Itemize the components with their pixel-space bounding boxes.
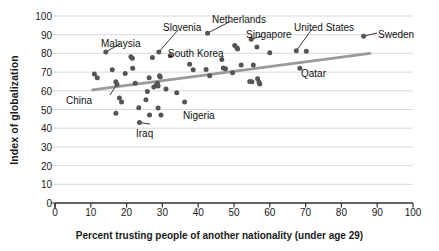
data-point-13 [133, 81, 138, 86]
data-point-58 [304, 49, 309, 54]
x-tick-label-20: 20 [107, 207, 147, 218]
y-tick-label-20: 20 [22, 160, 52, 171]
y-axis-label: Index of globalization [8, 20, 20, 200]
data-point-25 [156, 106, 161, 111]
annotation-united-states: United States [294, 22, 354, 33]
data-point-49 [249, 79, 254, 84]
data-point-41 [223, 66, 228, 71]
annotation-nigeria: Nigeria [183, 110, 215, 121]
data-point-46 [239, 62, 244, 67]
data-point-16 [143, 97, 148, 102]
data-point-8 [119, 100, 124, 105]
data-point-35 [191, 67, 196, 72]
data-point-55 [267, 50, 272, 55]
data-point-54 [257, 82, 262, 87]
annotation-china: China [66, 95, 92, 106]
x-tick-label-70: 70 [286, 207, 326, 218]
scatter-chart: 0102030405060708090100 01020304050607080… [0, 0, 439, 251]
data-point-17 [145, 89, 150, 94]
x-tick-label-0: 0 [35, 207, 75, 218]
y-tick-label-80: 80 [22, 48, 52, 59]
y-tick-label-50: 50 [22, 104, 52, 115]
data-point-6 [113, 111, 118, 116]
annotation-singapore: Singapore [246, 29, 292, 40]
data-point-slovenia [156, 49, 161, 54]
data-point-1 [95, 75, 100, 80]
data-point-51 [254, 45, 259, 50]
x-tick-label-60: 60 [250, 207, 290, 218]
y-tick-label-10: 10 [22, 179, 52, 190]
y-tick-label-100: 100 [22, 11, 52, 22]
x-tick-label-50: 50 [214, 207, 254, 218]
y-tick-label-70: 70 [22, 67, 52, 78]
annotation-qatar: Qatar [301, 68, 326, 79]
data-point-11 [130, 56, 135, 61]
y-tick-label-60: 60 [22, 85, 52, 96]
x-tick-label-100: 100 [393, 207, 433, 218]
data-point-34 [187, 62, 192, 67]
data-point-19 [147, 113, 152, 118]
annotation-iraq: Iraq [136, 128, 153, 139]
x-tick-label-30: 30 [142, 207, 182, 218]
data-point-42 [230, 70, 235, 75]
data-point-32 [174, 90, 179, 95]
data-point-malaysia [103, 49, 108, 54]
data-point-38 [207, 73, 212, 78]
data-point-20 [150, 55, 155, 60]
x-tick-label-90: 90 [357, 207, 397, 218]
annotation-netherlands: Netherlands [212, 14, 266, 25]
data-point-iraq [137, 120, 142, 125]
data-point-29 [158, 113, 163, 118]
annotation-sweden: Sweden [378, 29, 414, 40]
x-tick-label-80: 80 [321, 207, 361, 218]
data-point-30 [163, 86, 168, 91]
data-point-united-states [294, 48, 299, 53]
annotation-malaysia: Malaysia [101, 38, 140, 49]
data-point-9 [123, 71, 128, 76]
x-tick-label-10: 10 [71, 207, 111, 218]
data-point-sweden [361, 34, 366, 39]
data-point-45 [235, 46, 240, 51]
y-tick-label-40: 40 [22, 123, 52, 134]
data-point-36 [204, 67, 209, 72]
data-point-24 [156, 83, 161, 88]
y-tick-label-30: 30 [22, 141, 52, 152]
data-point-3 [110, 67, 115, 72]
x-axis-ticks: 0102030405060708090100 [0, 207, 439, 223]
annotation-slovenia: Slovenia [163, 22, 201, 33]
data-point-50 [251, 62, 256, 67]
data-point-netherlands [205, 31, 210, 36]
data-point-33 [182, 100, 187, 105]
data-point-28 [158, 74, 163, 79]
data-point-14 [136, 105, 141, 110]
x-axis-label: Percent trusting people of another natio… [0, 230, 439, 241]
x-tick-label-40: 40 [178, 207, 218, 218]
data-point-18 [147, 75, 152, 80]
y-tick-label-90: 90 [22, 29, 52, 40]
data-point-china [114, 82, 119, 87]
annotation-south-korea: South Korea [168, 48, 224, 59]
data-point-12 [130, 66, 135, 71]
